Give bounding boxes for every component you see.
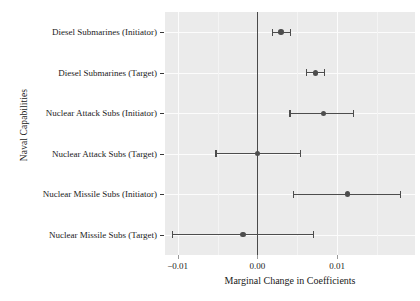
y-tick-label: Nuclear Attack Subs (Initiator) — [7, 108, 157, 118]
y-tick-mark — [160, 32, 164, 33]
confidence-interval-cap-upper — [313, 231, 314, 238]
y-tick-label: Nuclear Attack Subs (Target) — [7, 149, 157, 159]
y-tick-label: Diesel Submarines (Initiator) — [7, 27, 157, 37]
y-tick-label: Diesel Submarines (Target) — [7, 68, 157, 78]
zero-reference-line — [257, 12, 258, 255]
estimate-point — [240, 232, 246, 238]
x-axis-title: Marginal Change in Coefficients — [165, 275, 415, 286]
y-tick-mark — [160, 154, 164, 155]
gridline-vertical-major — [178, 12, 179, 255]
estimate-point — [345, 191, 351, 197]
y-tick-label: Nuclear Missile Subs (Initiator) — [7, 189, 157, 199]
estimate-point — [255, 151, 261, 157]
gridline-vertical-minor — [377, 12, 378, 255]
y-tick-mark — [160, 194, 164, 195]
x-tick-mark — [178, 255, 179, 259]
x-tick-mark — [337, 255, 338, 259]
confidence-interval-cap-lower — [289, 110, 290, 117]
x-tick-label: −0.01 — [153, 261, 203, 271]
forest-plot-chart: Naval Capabilities Diesel Submarines (In… — [0, 0, 420, 301]
y-tick-label: Nuclear Missile Subs (Target) — [7, 230, 157, 240]
confidence-interval-cap-lower — [172, 231, 173, 238]
y-tick-mark — [160, 235, 164, 236]
confidence-interval-cap-lower — [215, 150, 216, 157]
estimate-point — [278, 29, 284, 35]
estimate-point — [321, 111, 327, 117]
x-tick-label: 0.00 — [232, 261, 282, 271]
confidence-interval-cap-lower — [293, 191, 294, 198]
gridline-vertical-major — [337, 12, 338, 255]
confidence-interval-cap-upper — [300, 150, 301, 157]
y-tick-mark — [160, 113, 164, 114]
confidence-interval-cap-upper — [290, 29, 291, 36]
gridline-vertical-minor — [218, 12, 219, 255]
confidence-interval-cap-lower — [272, 29, 273, 36]
confidence-interval-cap-upper — [353, 110, 354, 117]
confidence-interval-cap-upper — [324, 69, 325, 76]
confidence-interval-cap-lower — [306, 69, 307, 76]
plot-panel — [165, 12, 415, 255]
y-tick-mark — [160, 73, 164, 74]
estimate-point — [313, 70, 319, 76]
gridline-vertical-minor — [297, 12, 298, 255]
x-tick-label: 0.01 — [312, 261, 362, 271]
confidence-interval-cap-upper — [400, 191, 401, 198]
x-tick-mark — [257, 255, 258, 259]
